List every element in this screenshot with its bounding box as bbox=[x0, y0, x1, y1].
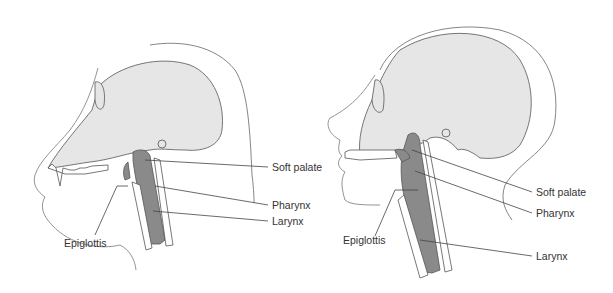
human-label-larynx: Larynx bbox=[536, 251, 568, 262]
chimp-figure bbox=[34, 43, 268, 270]
chimp-label-soft-palate: Soft palate bbox=[272, 162, 322, 173]
human-label-soft-palate: Soft palate bbox=[536, 187, 586, 198]
human-label-epiglottis: Epiglottis bbox=[343, 235, 386, 246]
human-skull bbox=[360, 33, 532, 158]
chimp-label-epiglottis: Epiglottis bbox=[64, 238, 107, 249]
chimp-leader-lines bbox=[95, 160, 268, 235]
human-label-pharynx: Pharynx bbox=[536, 208, 575, 219]
vocal-tract-comparison-diagram: Soft palate Pharynx Larynx Epiglottis So… bbox=[0, 0, 613, 293]
human-teeth bbox=[345, 150, 397, 160]
diagram-artwork bbox=[0, 0, 613, 293]
chimp-label-pharynx: Pharynx bbox=[272, 200, 311, 211]
chimp-label-larynx: Larynx bbox=[272, 216, 304, 227]
